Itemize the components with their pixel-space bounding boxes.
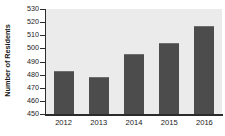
y-axis-tick-labels: 450460470480490500510520530 [15, 5, 39, 117]
y-tick-label: 470 [15, 84, 39, 92]
y-tick-label: 510 [15, 31, 39, 39]
bar [124, 54, 144, 114]
y-axis-title-text: Number of Residents [3, 24, 12, 96]
x-axis-line [45, 114, 223, 116]
x-axis-tick-labels: 20122013201420152016 [46, 118, 222, 132]
x-tick-label: 2016 [187, 118, 222, 128]
bar [89, 77, 109, 114]
x-tick-label: 2014 [116, 118, 151, 128]
bar [159, 43, 179, 114]
bar-chart: Number of Residents 45046047048049050051… [0, 0, 225, 136]
bar [194, 26, 214, 114]
x-tick-label: 2015 [152, 118, 187, 128]
y-tick-label: 480 [15, 71, 39, 79]
y-tick-label: 530 [15, 5, 39, 13]
y-tick-label: 520 [15, 18, 39, 26]
y-tick-label: 450 [15, 110, 39, 118]
y-tick-label: 500 [15, 44, 39, 52]
x-tick-label: 2013 [81, 118, 116, 128]
x-tick-label: 2012 [46, 118, 81, 128]
y-tick-label: 460 [15, 97, 39, 105]
y-axis-title: Number of Residents [0, 0, 14, 120]
y-tick-label: 490 [15, 58, 39, 66]
bar [54, 71, 74, 114]
plot-area [46, 9, 222, 114]
